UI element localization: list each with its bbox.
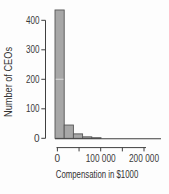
histogram-figure: 0100200300400 0100 000200 000 Number of … [0, 0, 169, 194]
histogram-bar [92, 138, 101, 139]
y-tick-label: 0 [34, 133, 40, 144]
x-axis-title: Compensation in $1000 [56, 169, 139, 180]
histogram-plot: 0100200300400 0100 000200 000 Number of … [0, 0, 169, 194]
y-tick-label: 300 [26, 44, 40, 55]
histogram-bar [64, 125, 73, 138]
histogram-bar [73, 134, 82, 138]
histogram-bar [83, 137, 92, 138]
y-tick-label: 400 [26, 15, 40, 26]
bars-group [55, 10, 101, 138]
y-tick-label: 200 [26, 74, 40, 85]
x-tick-label: 100 000 [86, 153, 116, 164]
y-tick-label: 100 [26, 103, 40, 114]
x-tick-label: 200 000 [129, 153, 159, 164]
y-axis: 0100200300400 [26, 15, 161, 144]
bar-highlight-artifact [56, 79, 64, 80]
x-tick-label: 0 [55, 153, 61, 164]
y-axis-title: Number of CEOs [3, 47, 14, 117]
histogram-bar [55, 10, 64, 138]
x-axis-ruler: 0100 000200 000 [55, 148, 160, 164]
